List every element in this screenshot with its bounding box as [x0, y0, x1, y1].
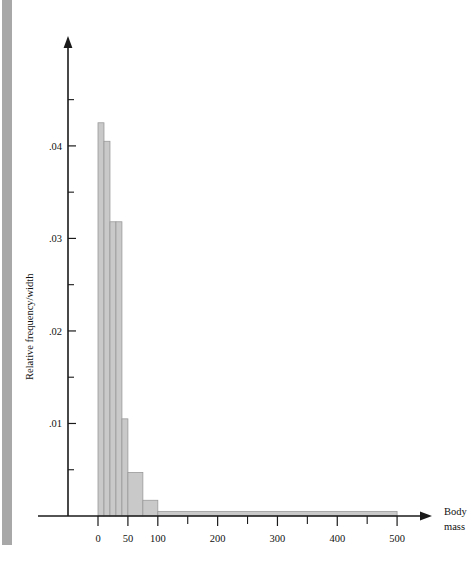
histogram-bar — [104, 141, 110, 516]
y-axis — [64, 36, 73, 516]
histogram-figure: .01.02.03.04 050100200300400500 Relative… — [0, 0, 475, 586]
histogram-bar — [98, 123, 104, 516]
y-axis-tick-labels: .01.02.03.04 — [49, 141, 63, 430]
histogram-bar — [143, 500, 158, 516]
y-tick-label: .01 — [49, 418, 62, 429]
y-tick-label: .03 — [49, 233, 62, 244]
x-axis-tick-labels: 050100200300400500 — [95, 533, 405, 544]
x-axis-title-line2: mass — [444, 521, 465, 532]
x-tick-label: 400 — [329, 533, 345, 544]
y-axis-ticks — [68, 100, 76, 470]
histogram-bar — [110, 222, 116, 516]
y-axis-title: Relative frequency/width — [24, 273, 35, 380]
histogram-svg: .01.02.03.04 050100200300400500 Relative… — [0, 0, 475, 586]
histogram-bar — [122, 419, 128, 516]
y-tick-label: .02 — [49, 326, 62, 337]
bars-group — [98, 123, 397, 516]
x-tick-label: 100 — [150, 533, 166, 544]
y-tick-label: .04 — [49, 141, 63, 152]
x-axis-title-line1: Body — [444, 506, 468, 517]
x-tick-label: 300 — [270, 533, 286, 544]
y-axis-arrowhead — [64, 36, 73, 48]
histogram-bar — [128, 473, 143, 516]
x-tick-label: 50 — [123, 533, 134, 544]
x-tick-label: 200 — [210, 533, 226, 544]
histogram-bar — [116, 222, 122, 516]
x-axis-ticks — [98, 516, 397, 526]
x-tick-label: 0 — [95, 533, 100, 544]
x-axis-arrowhead — [420, 512, 432, 521]
x-tick-label: 500 — [389, 533, 405, 544]
